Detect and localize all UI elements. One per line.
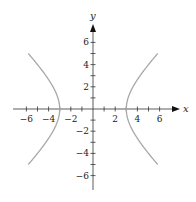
axes: xy [13,10,189,190]
x-tick-label: 2 [112,114,118,124]
y-tick-label: −2 [76,126,89,136]
x-tick-label: −4 [42,114,56,124]
y-tick-label: 4 [83,60,89,70]
x-tick-label: −6 [20,114,34,124]
y-tick-label: −6 [76,171,90,181]
x-tick-label: −2 [64,114,77,124]
y-axis-label: y [89,10,96,21]
y-tick-label: 2 [83,82,89,92]
y-axis-arrow-icon [90,24,96,32]
x-tick-label: 4 [135,114,141,124]
hyperbola-plot: xy −6−4−2246642−2−4−6 [0,0,196,202]
y-tick-label: 6 [83,37,89,47]
x-axis-arrow-icon [172,106,180,112]
x-axis-label: x [183,103,189,114]
x-tick-label: 6 [157,114,163,124]
y-tick-label: −4 [76,148,90,158]
